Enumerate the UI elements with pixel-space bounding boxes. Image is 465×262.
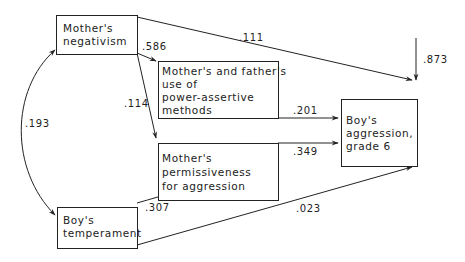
node-power-assertive-methods: Mother's and father's use of power-asser… bbox=[158, 61, 279, 119]
node-boy-temperament: Boy's temperament bbox=[57, 207, 138, 249]
coef-temperament-permissiveness: .307 bbox=[145, 202, 170, 213]
node-label: Boy's bbox=[63, 214, 142, 227]
node-boy-aggression: Boy's aggression, grade 6 bbox=[341, 99, 418, 167]
coef-negativism-permissiveness: .114 bbox=[124, 98, 149, 109]
coef-correlation: .193 bbox=[25, 118, 50, 129]
coef-negativism-power: .586 bbox=[142, 41, 167, 52]
arrow-negativism-to-power bbox=[137, 53, 156, 61]
coef-negativism-aggression: .111 bbox=[239, 32, 264, 43]
coef-temperament-aggression: .023 bbox=[296, 203, 321, 214]
node-label: permissiveness bbox=[162, 165, 251, 179]
node-mother-negativism: Mother's negativism bbox=[56, 15, 138, 55]
node-label: methods bbox=[162, 104, 286, 117]
node-label: power-assertive bbox=[162, 91, 286, 104]
node-label: negativism bbox=[63, 35, 127, 48]
node-label: temperament bbox=[63, 227, 142, 240]
node-label: Mother's bbox=[63, 22, 127, 35]
node-label: Boy's bbox=[346, 114, 413, 127]
node-label: aggression, bbox=[346, 127, 413, 140]
coef-permissiveness-aggression: .349 bbox=[293, 146, 318, 157]
node-label: Mother's and father's bbox=[162, 65, 286, 78]
node-label: Mother's bbox=[162, 151, 251, 165]
arrow-correlation-curve bbox=[21, 50, 55, 215]
path-diagram: Mother's negativism Mother's and father'… bbox=[0, 0, 465, 262]
node-label: use of bbox=[162, 78, 286, 91]
coef-power-aggression: .201 bbox=[293, 105, 318, 116]
coef-residual: .873 bbox=[423, 54, 448, 65]
node-label: grade 6 bbox=[346, 140, 413, 153]
node-mother-permissiveness: Mother's permissiveness for aggression bbox=[158, 143, 279, 201]
arrow-negativism-to-permissiveness bbox=[137, 53, 156, 138]
node-label: for aggression bbox=[162, 179, 251, 193]
